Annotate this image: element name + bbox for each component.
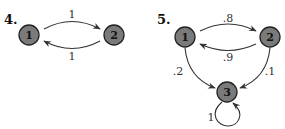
node-label: 1	[181, 31, 189, 44]
edge-1-to-2	[200, 24, 256, 31]
node-label: 1	[25, 29, 33, 42]
edge-label: .2	[173, 65, 184, 78]
edge-label: .9	[223, 51, 234, 64]
diagram-5: 5. .8 .9 .2 .1 1 1 2 3	[157, 12, 280, 127]
diagram-4: 4. 1 1 1 2	[4, 8, 124, 63]
edge-1-to-3	[185, 48, 215, 88]
edge-3-self-loop	[215, 102, 240, 126]
edge-label: .8	[223, 12, 234, 25]
markov-diagrams: 4. 1 1 1 2 5. .8 .9 .2 .1 1 1	[0, 0, 285, 129]
edge-label: .1	[265, 65, 276, 78]
diagram-number: 5.	[157, 12, 171, 27]
node-3: 3	[217, 82, 237, 102]
edge-1-to-2	[44, 22, 100, 30]
edge-label: 1	[208, 111, 215, 124]
node-2: 2	[260, 27, 280, 47]
node-label: 3	[223, 86, 231, 99]
node-label: 2	[266, 31, 274, 44]
edge-label: 1	[69, 50, 76, 63]
node-2: 2	[104, 25, 124, 45]
node-1: 1	[19, 25, 39, 45]
edge-2-to-1	[44, 41, 100, 49]
diagram-number: 4.	[4, 12, 18, 27]
node-1: 1	[175, 27, 195, 47]
node-label: 2	[110, 29, 118, 42]
edge-label: 1	[69, 8, 76, 21]
